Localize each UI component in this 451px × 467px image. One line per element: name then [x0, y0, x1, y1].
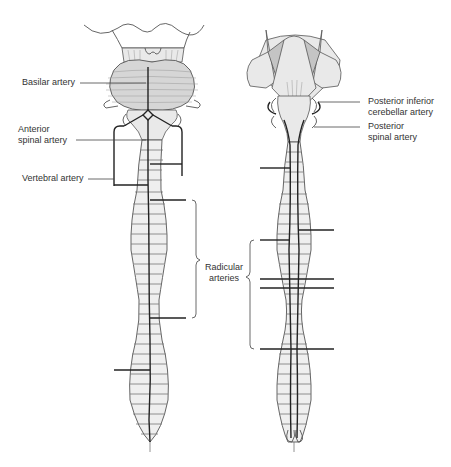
label-posterior-spinal-artery-line1: Posterior	[368, 121, 404, 132]
label-radicular-arteries-line2: arteries	[202, 273, 246, 284]
label-anterior-spinal-artery-line2: spinal artery	[18, 135, 67, 146]
posterior-view-drawing	[247, 30, 341, 452]
anterior-view-drawing	[84, 23, 204, 452]
label-pica-line1: Posterior inferior	[368, 96, 434, 107]
spinal-arteries-figure: Basilar artery Anterior spinal artery Ve…	[0, 0, 451, 467]
label-pica-line2: cerebellar artery	[368, 107, 433, 118]
label-anterior-spinal-artery-line1: Anterior	[18, 124, 50, 135]
label-vertebral-artery: Vertebral artery	[22, 173, 84, 184]
diagram-drawing	[0, 0, 451, 467]
label-posterior-spinal-artery-line2: spinal artery	[368, 132, 417, 143]
label-radicular-arteries-line1: Radicular	[202, 262, 246, 273]
label-basilar-artery: Basilar artery	[22, 77, 75, 88]
